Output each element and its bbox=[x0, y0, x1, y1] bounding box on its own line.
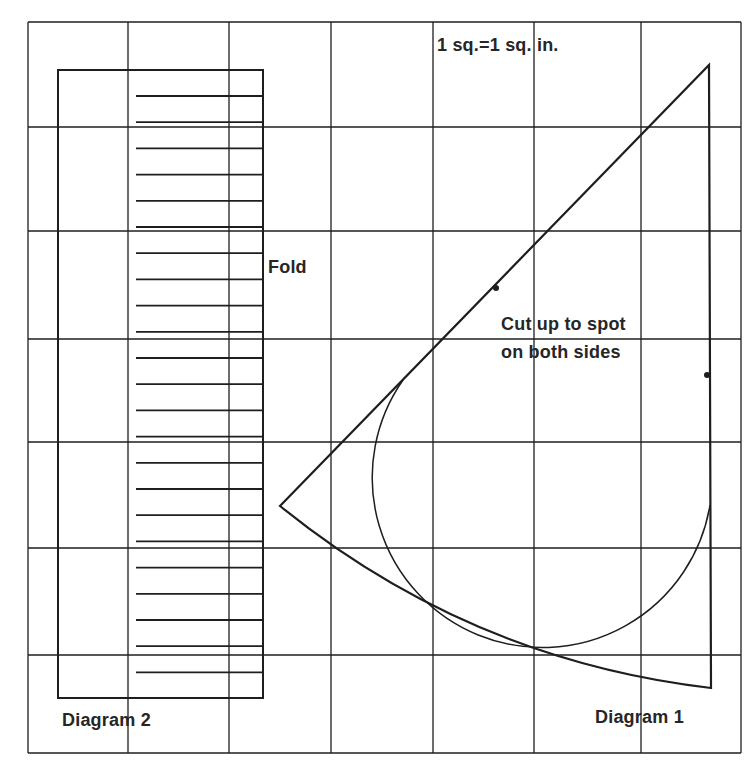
diagram-2-caption: Diagram 2 bbox=[62, 711, 151, 729]
cut-instruction-line-2: on both sides bbox=[501, 338, 626, 366]
cut-instruction-line-1: Cut up to spot bbox=[501, 310, 626, 338]
cut-spot-marker bbox=[704, 372, 710, 378]
diagram-1-caption: Diagram 1 bbox=[595, 708, 684, 726]
cone-outline bbox=[280, 65, 711, 688]
cut-spot-marker bbox=[493, 285, 499, 291]
cut-instruction-label: Cut up to spot on both sides bbox=[501, 310, 626, 366]
diagram-canvas bbox=[0, 0, 756, 772]
scale-label: 1 sq.=1 sq. in. bbox=[437, 36, 559, 54]
diagram-2-fringe-pattern bbox=[58, 70, 263, 698]
pattern-diagram: 1 sq.=1 sq. in. Fold Cut up to spot on b… bbox=[0, 0, 756, 772]
fold-label: Fold bbox=[268, 258, 307, 276]
inch-grid bbox=[28, 22, 741, 753]
base-circle-arc bbox=[372, 380, 710, 648]
diagram-1-cone-pattern bbox=[280, 65, 711, 688]
